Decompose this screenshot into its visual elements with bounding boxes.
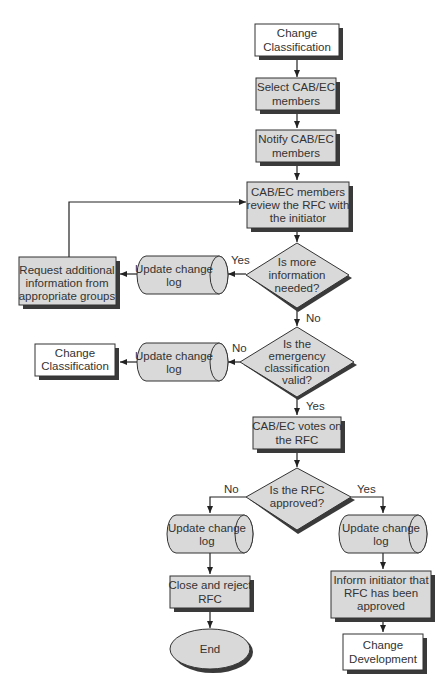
node-text: Change	[363, 639, 403, 651]
node-text: RFC has been	[344, 587, 418, 599]
edge-label-no: No	[224, 483, 239, 495]
decision-rfc-approved: Is the RFC approved?	[246, 468, 355, 534]
node-close-reject: Close and reject RFC	[168, 576, 254, 612]
node-text: Update change	[342, 522, 420, 534]
node-request-info: Request additional information from appr…	[19, 257, 120, 309]
edge-label-yes: Yes	[231, 254, 250, 266]
node-text: CAB/EC members	[251, 186, 345, 198]
node-text: log	[166, 276, 181, 288]
node-text: approved	[357, 600, 405, 612]
node-change-classification-2: Change Classification	[35, 344, 119, 380]
decision-text: approved?	[270, 497, 324, 509]
decision-text: valid?	[282, 374, 312, 386]
flowchart-canvas: Change Classification Select CAB/EC memb…	[0, 0, 448, 683]
decision-more-info: Is more information needed?	[246, 243, 352, 312]
node-text: Development	[349, 653, 418, 665]
node-text: members	[272, 147, 320, 159]
node-update-log-yes: Update change log	[339, 515, 427, 553]
node-text: Classification	[263, 41, 331, 53]
node-text: the initiator	[270, 212, 326, 224]
node-end: End	[170, 629, 253, 673]
decision-text: Is the	[283, 338, 311, 350]
node-notify-members: Notify CAB/EC members	[256, 130, 340, 166]
decision-text: emergency	[269, 350, 326, 362]
node-text: log	[373, 535, 388, 547]
node-text: Select CAB/EC	[257, 81, 335, 93]
node-update-log-2: Update change log	[135, 343, 228, 381]
edge-request-review	[69, 202, 246, 257]
decision-text: information	[269, 269, 326, 281]
node-select-members: Select CAB/EC members	[256, 78, 340, 114]
edge-label-no: No	[232, 342, 247, 354]
edge-label-yes: Yes	[357, 483, 376, 495]
node-change-development: Change Development	[343, 634, 427, 674]
edge-label-yes: Yes	[306, 400, 325, 412]
node-text: Request additional	[19, 264, 114, 276]
edge-decision3-yes	[351, 497, 383, 513]
node-text: members	[272, 95, 320, 107]
node-text: log	[166, 363, 181, 375]
node-update-log-1: Update change log	[135, 256, 228, 294]
node-text: CAB/EC votes on	[252, 420, 341, 432]
decision-emergency-valid: Is the emergency classification valid?	[240, 327, 357, 400]
node-votes-on-rfc: CAB/EC votes on the RFC	[252, 417, 345, 453]
node-text: Update change	[168, 522, 246, 534]
node-text: the RFC	[276, 434, 319, 446]
node-text: Classification	[41, 360, 109, 372]
edge-decision3-no	[210, 497, 246, 513]
node-inform-initiator: Inform initiator that RFC has been appro…	[331, 571, 435, 622]
node-text: Inform initiator that	[333, 574, 429, 586]
node-text: review the RFC with	[247, 199, 350, 211]
node-text: Notify CAB/EC	[258, 133, 333, 145]
node-text: RFC	[198, 593, 222, 605]
decision-text: needed?	[275, 282, 320, 294]
decision-text: classification	[264, 362, 329, 374]
edge-label-no: No	[306, 312, 321, 324]
node-update-log-no: Update change log	[167, 515, 253, 553]
node-change-classification-start: Change Classification	[255, 24, 343, 60]
decision-text: Is more	[278, 256, 316, 268]
node-text: Change	[277, 27, 317, 39]
node-text: Update change	[135, 350, 213, 362]
decision-text: Is the RFC	[270, 484, 325, 496]
node-text: log	[199, 535, 214, 547]
node-text: appropriate groups	[19, 290, 116, 302]
node-review-rfc: CAB/EC members review the RFC with the i…	[247, 182, 353, 232]
node-text: Update change	[135, 263, 213, 275]
node-text: information from	[25, 277, 108, 289]
node-text: Change	[55, 347, 95, 359]
node-text: End	[200, 643, 220, 655]
node-text: Close and reject	[168, 579, 252, 591]
